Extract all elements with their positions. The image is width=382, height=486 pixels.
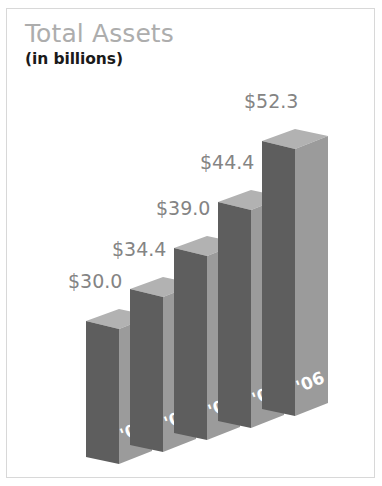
- bar-front-face-0: [86, 321, 119, 464]
- bar-front-face-3: [218, 202, 251, 428]
- bar-chart-plot: $30.0 '02 $34.4 '03 $39.0 '04 $44.4 '05: [7, 9, 376, 479]
- bar-value-label-2: $39.0: [156, 197, 210, 219]
- bar-value-label-4: $52.3: [244, 90, 298, 112]
- bar-front-face-1: [130, 289, 163, 452]
- bar-front-face-2: [174, 248, 207, 440]
- bar-value-label-0: $30.0: [68, 270, 122, 292]
- chart-card: Total Assets (in billions) $30.0 '02 $34…: [6, 8, 375, 478]
- bar-front-face-4: [262, 141, 295, 416]
- bar-value-label-1: $34.4: [112, 238, 166, 260]
- bar-value-label-3: $44.4: [200, 151, 254, 173]
